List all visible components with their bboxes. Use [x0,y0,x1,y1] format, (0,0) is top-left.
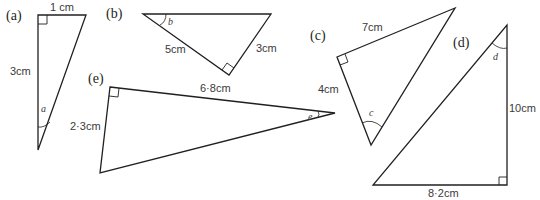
triangle-b-angle: b [168,16,173,27]
triangle-e-label: (e) [88,71,104,87]
angle-arc-icon [318,111,319,117]
triangle-d: (d) 10cm 8·2cm d [373,25,536,199]
triangle-a-side-top: 1 cm [50,1,74,13]
triangle-d-label: (d) [453,35,470,51]
triangle-a-side-left: 3cm [10,65,31,77]
angle-arc-icon [362,121,382,127]
triangle-c-shape [337,8,455,145]
triangle-a-label: (a) [6,8,22,24]
triangle-d-side-right: 10cm [509,102,536,114]
triangle-a-angle: a [41,103,46,114]
triangles-diagram: (a) 1 cm 3cm a (b) 5cm 3cm b (c) 7cm 4cm… [0,0,540,200]
triangle-d-side-bottom: 8·2cm [428,187,459,199]
triangle-c: (c) 7cm 4cm c [310,8,455,145]
triangle-c-label: (c) [310,28,326,44]
triangle-d-angle: d [493,51,499,62]
triangle-b-label: (b) [106,6,123,22]
angle-arc-icon [160,14,166,25]
right-angle-marker-icon [499,177,507,185]
right-angle-marker-icon [222,63,234,70]
triangle-c-side-top: 7cm [362,21,383,33]
triangle-e-side-top: 6·8cm [200,82,231,94]
triangle-b-side-left: 5cm [165,43,186,55]
triangle-e: (e) 6·8cm 2·3cm e [70,71,335,173]
triangle-b-side-right: 3cm [256,42,277,54]
triangle-e-shape [100,87,335,173]
triangle-b: (b) 5cm 3cm b [106,6,277,75]
triangle-c-angle: c [369,107,374,118]
triangle-c-side-left: 4cm [318,83,339,95]
right-angle-marker-icon [109,88,119,97]
right-angle-marker-icon [38,15,47,24]
triangle-e-angle: e [308,111,313,122]
angle-arc-icon [492,43,507,48]
triangle-d-shape [373,25,507,185]
triangle-e-side-left: 2·3cm [70,120,101,132]
